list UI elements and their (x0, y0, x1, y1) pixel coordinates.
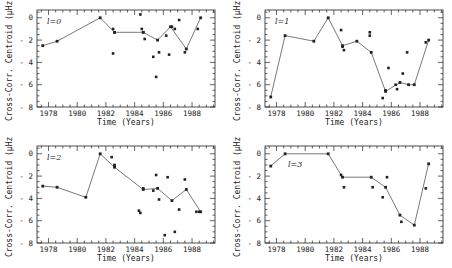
scatter-point (139, 212, 142, 215)
y-tick-label: - 6 (247, 216, 261, 225)
y-tick-label: - 4 (247, 58, 261, 67)
scatter-point (424, 41, 427, 44)
scatter-point (381, 196, 384, 199)
scatter-point (165, 34, 168, 37)
scatter-point (198, 210, 201, 213)
scatter-point (184, 51, 187, 54)
line-marker (284, 34, 287, 37)
line-marker (99, 152, 102, 155)
scatter-point (368, 34, 371, 37)
scatter-point (386, 176, 389, 179)
line-marker (185, 188, 188, 191)
panel-l1: 1978198019821984198619880- 2- 4- 6- 8Tim… (228, 0, 452, 134)
scatter-point (163, 234, 166, 237)
x-tick-label: 1982 (325, 245, 343, 254)
line-marker (327, 152, 330, 155)
x-tick-label: 1982 (97, 245, 115, 254)
y-tick-label: 0 (256, 149, 261, 158)
scatter-point (402, 72, 405, 75)
scatter-point (340, 174, 343, 177)
scatter-point (171, 25, 174, 28)
x-tick-label: 1984 (354, 245, 373, 254)
x-tick-label: 1986 (382, 245, 401, 254)
x-tick-label: 1982 (97, 109, 115, 118)
line-marker (269, 165, 272, 168)
line-marker (269, 96, 272, 99)
scatter-point (113, 165, 116, 168)
scatter-point (155, 76, 158, 79)
plot-l0: 1978198019821984198619880- 2- 4- 6- 8Tim… (0, 0, 226, 134)
y-tick-label: - 2 (19, 36, 33, 45)
line-marker (427, 39, 430, 42)
y-tick-label: - 6 (19, 80, 33, 89)
panel-l3: 1978198019821984198619880- 2- 4- 6- 8Tim… (228, 136, 452, 268)
line-marker (284, 152, 287, 155)
plot-l3: 1978198019821984198619880- 2- 4- 6- 8Tim… (228, 136, 452, 268)
y-axis-label: Cross-Corr. Centroid (µHz) (5, 136, 14, 257)
scatter-point (174, 231, 177, 234)
scatter-point (112, 52, 115, 55)
y-tick-label: 0 (28, 13, 33, 22)
x-tick-label: 1988 (411, 109, 430, 118)
y-axis-label: Cross-Corr. Centroid (µHz) (233, 0, 242, 121)
y-tick-label: - 4 (19, 194, 33, 203)
scatter-point (341, 45, 344, 48)
x-tick-label: 1988 (183, 245, 202, 254)
line-marker (413, 224, 416, 227)
plot-l2: 1978198019821984198619880- 2- 4- 6- 8Tim… (0, 136, 226, 268)
x-axis-label: Time (Years) (325, 118, 383, 127)
y-tick-label: - 2 (247, 36, 261, 45)
x-tick-label: 1984 (354, 109, 373, 118)
x-tick-label: 1988 (411, 245, 430, 254)
scatter-point (152, 56, 155, 59)
y-tick-label: 0 (28, 149, 33, 158)
plot-frame (37, 146, 215, 243)
scatter-point (178, 19, 181, 22)
scatter-point (158, 51, 161, 54)
y-tick-label: - 2 (247, 172, 261, 181)
line-marker (312, 40, 315, 43)
scatter-point (343, 49, 346, 52)
x-tick-label: 1984 (126, 109, 145, 118)
line-marker (413, 83, 416, 86)
scatter-point (158, 198, 161, 201)
series-line (271, 18, 429, 97)
line-marker (171, 199, 174, 202)
line-marker (41, 44, 44, 47)
scatter-point (142, 187, 145, 190)
scatter-point (139, 13, 142, 16)
scatter-point (112, 28, 115, 31)
scatter-point (196, 28, 199, 31)
x-tick-label: 1986 (382, 109, 401, 118)
x-tick-label: 1978 (39, 109, 58, 118)
line-marker (370, 176, 373, 179)
scatter-point (155, 174, 158, 177)
line-marker (84, 196, 87, 199)
line-marker (199, 16, 202, 19)
scatter-point (387, 67, 390, 70)
scatter-point (110, 156, 113, 159)
plot-l1: 1978198019821984198619880- 2- 4- 6- 8Tim… (228, 0, 452, 134)
scatter-point (166, 176, 169, 179)
scatter-point (138, 209, 141, 212)
scatter-point (184, 178, 187, 181)
plot-frame (37, 10, 215, 107)
line-marker (355, 40, 358, 43)
x-tick-label: 1978 (39, 245, 58, 254)
y-tick-label: - 6 (247, 80, 261, 89)
y-tick-label: - 4 (19, 58, 33, 67)
x-tick-label: 1980 (296, 245, 315, 254)
line-marker (427, 162, 430, 165)
line-marker (41, 185, 44, 188)
scatter-point (394, 83, 397, 86)
x-tick-label: 1982 (325, 109, 343, 118)
y-axis-label: Cross-Corr. Centroid (µHz) (233, 136, 242, 257)
x-tick-label: 1986 (154, 109, 173, 118)
x-tick-label: 1984 (126, 245, 145, 254)
line-marker (399, 214, 402, 217)
x-tick-label: 1980 (68, 109, 87, 118)
line-marker (99, 16, 102, 19)
scatter-point (400, 221, 403, 224)
panel-tag: l=0 (47, 17, 61, 26)
y-tick-label: - 4 (247, 194, 261, 203)
